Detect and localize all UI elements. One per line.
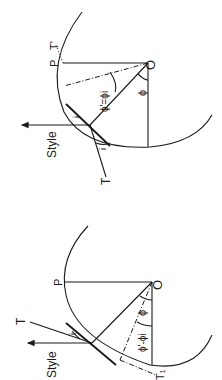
tangent-line — [66, 323, 116, 365]
figure-top: P T' O ϕ ϕ'=ϕi i i T Style — [22, 12, 212, 185]
line-dashdot — [64, 63, 148, 86]
label-T: T — [99, 177, 113, 185]
angle-arc-phi-prime — [110, 72, 116, 92]
groove-arc — [57, 12, 212, 147]
label-phi-prime: ϕ'=ϕi — [99, 91, 110, 112]
label-T1: T₁ — [154, 369, 166, 380]
label-O: O — [143, 60, 158, 70]
figure-bottom: P O ϕ ϕ'-ϕi T i T₁ Style — [14, 226, 212, 380]
label-i-upper: i — [72, 116, 82, 118]
label-O: O — [150, 280, 165, 290]
line-T — [30, 322, 92, 343]
diagram-canvas: P T' O ϕ ϕ'=ϕi i i T Style P O ϕ — [0, 0, 222, 380]
label-phi: ϕ — [136, 90, 148, 96]
angle-arc-phi-prime — [137, 322, 152, 326]
label-style: Style — [45, 131, 59, 158]
line-dashdot-T1 — [120, 360, 156, 375]
label-style: Style — [45, 351, 59, 378]
angle-arc-phi — [138, 74, 148, 80]
angle-arc-phi — [140, 296, 152, 300]
line-T — [90, 125, 106, 177]
label-i: i — [68, 333, 78, 335]
label-T: T — [14, 317, 28, 325]
label-T-prime: T' — [48, 41, 60, 50]
label-P: P — [52, 279, 64, 286]
label-i: i — [98, 148, 108, 150]
label-phi: ϕ — [136, 310, 148, 316]
label-P: P — [48, 60, 60, 67]
label-phi-prime: ϕ'-ϕi — [137, 333, 148, 352]
